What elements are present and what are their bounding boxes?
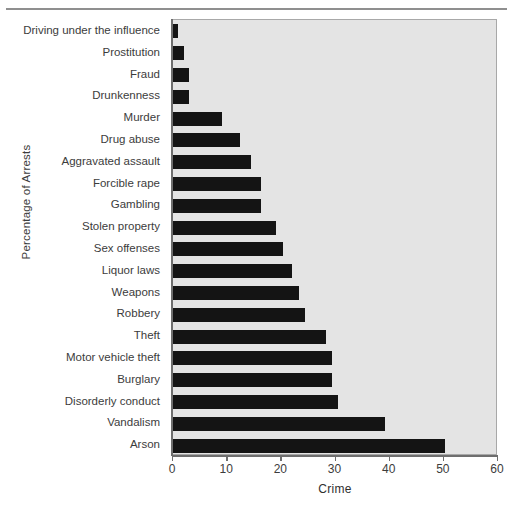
category-label: Gambling	[111, 193, 160, 216]
category-label: Stolen property	[82, 215, 160, 238]
category-label: Disorderly conduct	[65, 390, 160, 413]
bar-row	[173, 325, 496, 348]
y-axis-line	[171, 19, 173, 456]
bar-row	[173, 151, 496, 174]
x-axis-tick	[497, 455, 498, 461]
bar	[173, 46, 184, 60]
x-axis-title: Crime	[172, 482, 498, 496]
bar-row	[173, 260, 496, 283]
bar	[173, 68, 189, 82]
x-axis-tick	[280, 455, 281, 461]
bar	[173, 221, 276, 235]
bar	[173, 133, 240, 147]
bar-row	[173, 391, 496, 414]
bar	[173, 308, 305, 322]
x-axis-tick-label: 20	[260, 462, 300, 476]
x-axis-tick-label: 30	[315, 462, 355, 476]
bar-row	[173, 64, 496, 87]
bar-row	[173, 107, 496, 130]
category-label: Prostitution	[102, 41, 160, 64]
bar-row	[173, 347, 496, 370]
bar	[173, 90, 189, 104]
bar	[173, 264, 292, 278]
bar-row	[173, 42, 496, 65]
bar	[173, 373, 332, 387]
x-axis-tick-label: 50	[423, 462, 463, 476]
bar-row	[173, 369, 496, 392]
x-axis-tick	[389, 455, 390, 461]
x-axis-tick-label: 40	[369, 462, 409, 476]
category-label: Sex offenses	[94, 237, 160, 260]
category-label: Aggravated assault	[62, 150, 160, 173]
bar-row	[173, 303, 496, 326]
category-label: Liquor laws	[102, 259, 160, 282]
bar	[173, 439, 445, 453]
bar-row	[173, 129, 496, 152]
bar-row	[173, 434, 496, 457]
bar	[173, 112, 222, 126]
bar	[173, 24, 178, 38]
category-label: Arson	[130, 433, 160, 456]
bar	[173, 155, 251, 169]
category-label: Vandalism	[107, 411, 160, 434]
bar	[173, 330, 326, 344]
bars-layer	[173, 20, 496, 454]
bar	[173, 242, 283, 256]
category-label: Burglary	[117, 368, 160, 391]
bar-row	[173, 194, 496, 217]
category-label: Drug abuse	[101, 128, 160, 151]
y-axis-category-labels: Driving under the influenceProstitutionF…	[0, 19, 166, 455]
bar-row	[173, 216, 496, 239]
bar-row	[173, 412, 496, 435]
x-axis-tick	[172, 455, 173, 461]
x-axis-tick	[226, 455, 227, 461]
category-label: Driving under the influence	[23, 19, 160, 42]
category-label: Forcible rape	[93, 172, 160, 195]
category-label: Motor vehicle theft	[66, 346, 160, 369]
bar-chart-figure: Percentage of Arrests Driving under the …	[0, 0, 522, 506]
bar	[173, 351, 332, 365]
x-axis-tick	[335, 455, 336, 461]
bar-row	[173, 238, 496, 261]
x-axis-tick-label: 60	[477, 462, 517, 476]
bar	[173, 199, 261, 213]
x-axis-tick-label: 0	[152, 462, 192, 476]
category-label: Fraud	[130, 63, 160, 86]
bar	[173, 286, 299, 300]
bar-row	[173, 282, 496, 305]
x-axis-tick	[443, 455, 444, 461]
x-axis-tick-label: 10	[206, 462, 246, 476]
bar-row	[173, 85, 496, 108]
bar-row	[173, 173, 496, 196]
bar	[173, 177, 261, 191]
bar	[173, 417, 385, 431]
category-label: Drunkenness	[92, 84, 160, 107]
category-label: Murder	[124, 106, 160, 129]
header-divider	[6, 8, 507, 10]
category-label: Weapons	[112, 281, 160, 304]
bar-row	[173, 20, 496, 43]
category-label: Theft	[134, 324, 160, 347]
plot-area	[172, 19, 497, 455]
bar	[173, 395, 338, 409]
category-label: Robbery	[117, 302, 160, 325]
